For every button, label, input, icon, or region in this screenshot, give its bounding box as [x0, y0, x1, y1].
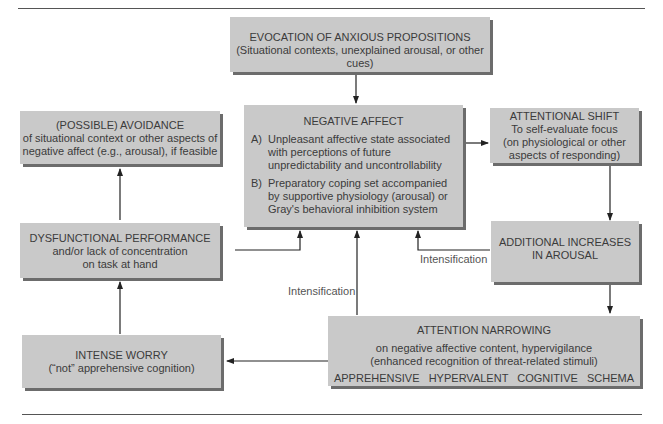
- negative-affect-item-b: B) Preparatory coping set accompanied by…: [251, 177, 457, 216]
- evocation-title: EVOCATION OF ANXIOUS PROPOSITIONS: [230, 31, 490, 44]
- dysfunctional-performance-title: DYSFUNCTIONAL PERFORMANCE: [20, 232, 220, 245]
- intensification-label-right: Intensification: [420, 253, 487, 265]
- additional-increases-box: ADDITIONAL INCREASES IN AROUSAL: [491, 221, 639, 282]
- intense-worry-title: INTENSE WORRY: [22, 349, 221, 362]
- avoidance-box: (POSSIBLE) AVOIDANCE of situational cont…: [20, 111, 220, 164]
- attentional-shift-line-3: aspects of responding): [490, 149, 639, 162]
- avoidance-line-2: negative affect (e.g., arousal), if feas…: [20, 145, 220, 158]
- intense-worry-box: INTENSE WORRY (“not” apprehensive cognit…: [22, 335, 221, 388]
- intense-worry-line-1: (“not” apprehensive cognition): [22, 362, 221, 375]
- dysfunctional-performance-box: DYSFUNCTIONAL PERFORMANCE and/or lack of…: [20, 223, 220, 278]
- attention-narrowing-line-1: on negative affective content, hypervigi…: [328, 342, 640, 355]
- attentional-shift-line-1: To self-evaluate focus: [490, 123, 639, 136]
- item-label: B): [251, 177, 268, 216]
- negative-affect-box: NEGATIVE AFFECT A) Unpleasant affective …: [244, 105, 463, 227]
- attention-narrowing-line-2: (enhanced recognition of threat-related …: [328, 355, 640, 368]
- attention-narrowing-box: ATTENTION NARROWING on negative affectiv…: [328, 316, 640, 386]
- attentional-shift-title: ATTENTIONAL SHIFT: [490, 110, 639, 123]
- item-text: Unpleasant affective state associated wi…: [268, 133, 457, 172]
- attention-narrowing-title: ATTENTION NARROWING: [328, 324, 640, 337]
- dysfunctional-performance-line-1: and/or lack of concentration: [20, 245, 220, 258]
- attentional-shift-box: ATTENTIONAL SHIFT To self-evaluate focus…: [490, 108, 639, 163]
- intensification-label-center: Intensification: [288, 285, 355, 297]
- dysfunctional-performance-line-2: on task at hand: [20, 258, 220, 271]
- evocation-subtitle: (Situational contexts, unexplained arous…: [230, 44, 490, 70]
- item-text: Preparatory coping set accompanied by su…: [268, 177, 457, 216]
- evocation-box: EVOCATION OF ANXIOUS PROPOSITIONS (Situa…: [230, 17, 490, 72]
- additional-increases-line-1: IN AROUSAL: [491, 249, 639, 262]
- attention-narrowing-footer: APPREHENSIVE HYPERVALENT COGNITIVE SCHEM…: [328, 372, 640, 385]
- negative-affect-list: A) Unpleasant affective state associated…: [251, 133, 457, 216]
- avoidance-line-1: of situational context or other aspects …: [20, 132, 220, 145]
- negative-affect-title: NEGATIVE AFFECT: [244, 115, 463, 128]
- item-label: A): [251, 133, 268, 172]
- negative-affect-item-a: A) Unpleasant affective state associated…: [251, 133, 457, 172]
- attentional-shift-line-2: (on physiological or other: [490, 136, 639, 149]
- additional-increases-title: ADDITIONAL INCREASES: [491, 236, 639, 249]
- avoidance-title: (POSSIBLE) AVOIDANCE: [20, 119, 220, 132]
